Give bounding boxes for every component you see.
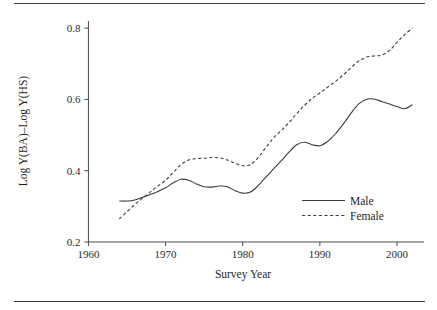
y-tick-label: 0.6 bbox=[67, 93, 81, 105]
x-axis-tick-labels: 19601970198019902000 bbox=[77, 248, 408, 260]
x-tick-label: 1960 bbox=[77, 248, 100, 260]
y-axis-tick-labels: 0.20.40.60.8 bbox=[67, 22, 81, 248]
x-tick-label: 1990 bbox=[309, 248, 332, 260]
series-line-male bbox=[119, 99, 412, 201]
series-line-female bbox=[119, 28, 412, 219]
y-tick-label: 0.4 bbox=[67, 165, 81, 177]
x-axis-title: Survey Year bbox=[215, 268, 271, 281]
y-axis-title: Log Y(BA)–Log Y(HS) bbox=[17, 76, 30, 186]
figure-container: 0.20.40.60.8 19601970198019902000 Male F… bbox=[0, 0, 437, 310]
y-axis-ticks bbox=[84, 28, 88, 242]
x-tick-label: 2000 bbox=[386, 248, 409, 260]
x-tick-label: 1980 bbox=[232, 248, 255, 260]
y-tick-label: 0.8 bbox=[67, 22, 81, 34]
legend: Male Female bbox=[302, 195, 384, 222]
line-chart: 0.20.40.60.8 19601970198019902000 Male F… bbox=[0, 0, 437, 310]
legend-label-male: Male bbox=[350, 195, 374, 207]
data-series-group bbox=[119, 28, 412, 219]
x-axis-ticks bbox=[88, 242, 397, 246]
x-tick-label: 1970 bbox=[155, 248, 178, 260]
legend-label-female: Female bbox=[350, 210, 384, 222]
y-tick-label: 0.2 bbox=[67, 236, 81, 248]
